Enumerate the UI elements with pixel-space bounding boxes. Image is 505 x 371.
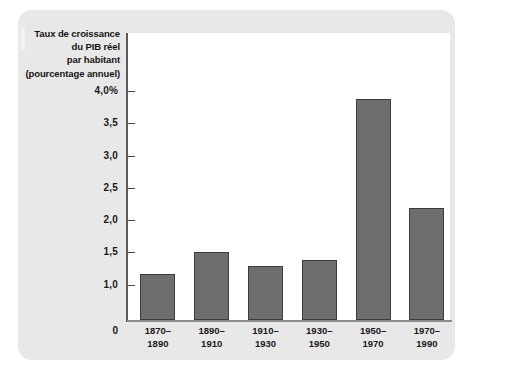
x-tick-label-line: 1950– — [343, 325, 403, 338]
x-tick-label-line: 1890– — [182, 325, 242, 338]
x-tick-label-line: 1910 — [182, 338, 242, 351]
y-axis-title-line-1: Taux de croissance — [8, 27, 120, 40]
y-tick-label: 2,5 — [60, 182, 118, 193]
x-tick-label: 1970–1990 — [397, 325, 457, 350]
bar — [248, 266, 283, 320]
x-tick-label-line: 1970 — [343, 338, 403, 351]
x-tick-label-line: 1990 — [397, 338, 457, 351]
x-tick-label: 1950–1970 — [343, 325, 403, 350]
y-tick-mark — [128, 91, 135, 92]
y-tick-mark — [128, 156, 135, 157]
bar — [140, 274, 175, 320]
y-tick-mark — [128, 123, 135, 124]
y-axis-line — [126, 33, 128, 322]
bar — [194, 252, 229, 320]
y-axis-title-line-3: par habitant — [8, 53, 120, 66]
y-axis-title-line-4: (pourcentage annuel) — [8, 67, 120, 80]
x-tick-label: 1890–1910 — [182, 325, 242, 350]
y-tick-label: 2,0 — [60, 214, 118, 225]
x-tick-label-line: 1890 — [128, 338, 188, 351]
y-tick-label: 3,5 — [60, 117, 118, 128]
y-axis-title: Taux de croissance du PIB réel par habit… — [8, 27, 120, 80]
y-tick-label-zero: 0 — [60, 325, 118, 336]
y-axis-title-line-2: du PIB réel — [8, 40, 120, 53]
y-tick-mark — [128, 188, 135, 189]
x-tick-label-line: 1930 — [236, 338, 296, 351]
x-axis-line — [127, 320, 452, 322]
y-tick-mark — [128, 220, 135, 221]
y-tick-label: 1,0 — [60, 279, 118, 290]
y-tick-label: 4,0% — [60, 85, 118, 96]
y-tick-label: 3,0 — [60, 150, 118, 161]
y-tick-mark — [128, 252, 135, 253]
x-tick-label-line: 1950 — [289, 338, 349, 351]
x-tick-label-line: 1970– — [397, 325, 457, 338]
y-tick-label: 1,5 — [60, 246, 118, 257]
y-tick-mark — [128, 285, 135, 286]
x-tick-label: 1910–1930 — [236, 325, 296, 350]
bar — [302, 260, 337, 320]
x-tick-label-line: 1930– — [289, 325, 349, 338]
x-tick-label: 1870–1890 — [128, 325, 188, 350]
bar — [356, 99, 391, 320]
plot-area — [127, 33, 450, 320]
x-tick-label: 1930–1950 — [289, 325, 349, 350]
x-tick-label-line: 1870– — [128, 325, 188, 338]
x-tick-label-line: 1910– — [236, 325, 296, 338]
bar — [409, 208, 444, 320]
